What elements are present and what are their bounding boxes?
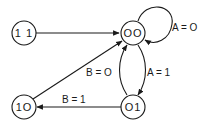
- node-10: 1O: [12, 95, 36, 119]
- edge-label-b1: B = 1: [62, 94, 86, 105]
- edge-00-self-loop: A = O: [138, 7, 198, 42]
- node-01: O1: [121, 95, 145, 119]
- edge-label-a0: A = O: [172, 22, 198, 33]
- edge-label-b0: B = O: [86, 67, 112, 78]
- state-diagram: A = O A = 1 B = O B = 1 1 1 OO O1 1O: [0, 0, 206, 128]
- node-label-01: O1: [125, 101, 142, 113]
- node-label-00: OO: [123, 27, 142, 39]
- node-label-10: 1O: [16, 101, 33, 113]
- edge-label-a1: A = 1: [147, 67, 171, 78]
- node-00: OO: [121, 21, 145, 45]
- edge-00-to-01: A = 1: [138, 45, 171, 95]
- edge-01-to-10: B = 1: [37, 94, 121, 107]
- edge-01-to-00: B = O: [86, 45, 127, 95]
- node-11: 1 1: [12, 21, 36, 45]
- node-label-11: 1 1: [15, 27, 33, 39]
